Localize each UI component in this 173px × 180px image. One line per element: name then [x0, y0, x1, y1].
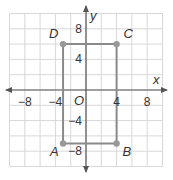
vertex-label-c: C — [124, 26, 134, 41]
x-axis-arrow-left-icon — [5, 87, 12, 93]
vertex-point-c — [113, 41, 119, 47]
vertex-label-a: A — [49, 144, 59, 159]
vertex-point-a — [60, 140, 66, 146]
y-axis-label: y — [89, 8, 98, 23]
x-tick-label: 4 — [113, 95, 120, 109]
axes — [5, 5, 168, 173]
x-tick-label: 8 — [144, 95, 151, 109]
x-tick-label: −8 — [18, 95, 32, 109]
y-tick-label: −4 — [68, 114, 82, 128]
y-tick-label: 4 — [75, 52, 82, 66]
y-axis-arrow-down-icon — [83, 166, 89, 173]
vertex-point-b — [113, 140, 119, 146]
y-tick-label: 8 — [75, 22, 82, 36]
x-axis-label: x — [152, 72, 160, 87]
x-tick-label: −4 — [49, 95, 63, 109]
vertex-points: ABCD — [49, 26, 134, 158]
y-axis-arrow-up-icon — [83, 5, 89, 12]
x-axis-arrow-right-icon — [161, 87, 168, 93]
coordinate-plane: −8−44884−4−8 ABCD x y O — [0, 0, 173, 180]
y-tick-label: −8 — [68, 144, 82, 158]
vertex-label-b: B — [123, 144, 132, 159]
vertex-point-d — [60, 41, 66, 47]
vertex-label-d: D — [49, 26, 58, 41]
origin-label: O — [74, 93, 84, 108]
